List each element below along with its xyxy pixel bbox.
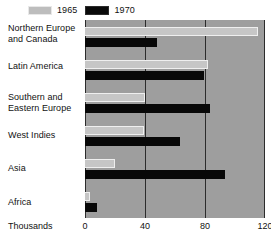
- legend-entry-1970: 1970: [85, 6, 134, 15]
- bar-1965-asia: [85, 159, 115, 168]
- category-label-africa: Africa: [8, 197, 85, 208]
- legend-swatch-1965-icon: [28, 6, 52, 15]
- x-axis-ticks: 04080120: [85, 221, 265, 235]
- bar-1970-latin-america: [85, 71, 204, 80]
- category-label-asia: Asia: [8, 163, 85, 174]
- legend-label-1965: 1965: [57, 6, 77, 15]
- legend-swatch-1970-icon: [85, 6, 109, 15]
- bar-1965-northern-europe-and-canada: [85, 27, 258, 36]
- category-label-northern-europe-and-canada: Northern Europe and Canada: [8, 23, 85, 45]
- x-tick-label-120: 120: [257, 221, 271, 231]
- bar-1970-west-indies: [85, 137, 180, 146]
- x-tick-label-0: 0: [82, 221, 87, 231]
- bar-1970-northern-europe-and-canada: [85, 38, 157, 47]
- category-label-line2: and Canada: [8, 34, 85, 45]
- category-label-line1: Latin America: [8, 61, 85, 72]
- bar-1965-latin-america: [85, 60, 208, 69]
- bar-chart: 1965 1970 Northern Europe and Canada Lat…: [0, 0, 271, 242]
- bar-1965-africa: [85, 192, 90, 201]
- bars-layer: [85, 20, 265, 218]
- bar-1970-southern-and-eastern-europe: [85, 104, 210, 113]
- category-axis-labels: Northern Europe and Canada Latin America…: [0, 20, 85, 218]
- x-tick-label-80: 80: [200, 221, 210, 231]
- category-label-line1: West Indies: [8, 130, 85, 141]
- category-label-line1: Africa: [8, 197, 85, 208]
- plot-area: [85, 20, 265, 218]
- category-label-southern-and-eastern-europe: Southern and Eastern Europe: [8, 92, 85, 114]
- axis-title-thousands: Thousands: [8, 221, 53, 231]
- legend-entry-1965: 1965: [28, 6, 77, 15]
- legend-label-1970: 1970: [114, 6, 134, 15]
- category-label-line2: Eastern Europe: [8, 103, 85, 114]
- category-label-west-indies: West Indies: [8, 130, 85, 141]
- category-label-line1: Asia: [8, 163, 85, 174]
- bar-1965-southern-and-eastern-europe: [85, 93, 145, 102]
- bar-1965-west-indies: [85, 126, 144, 135]
- category-label-line1: Northern Europe: [8, 23, 85, 34]
- category-label-line1: Southern and: [8, 92, 85, 103]
- bar-1970-africa: [85, 203, 97, 212]
- x-tick-label-40: 40: [140, 221, 150, 231]
- category-label-latin-america: Latin America: [8, 61, 85, 72]
- chart-legend: 1965 1970: [28, 3, 135, 17]
- bar-1970-asia: [85, 170, 225, 179]
